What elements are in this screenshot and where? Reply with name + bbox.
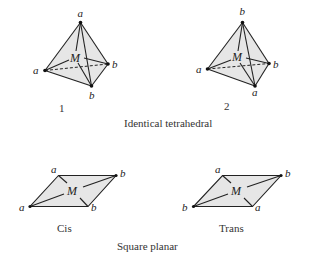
tetrahedron-2: b a b a M 2 — [196, 5, 279, 112]
metal-center-label: M — [230, 184, 242, 198]
isomer-diagram: a a b b M 1 b a b a M 2 Identical tetrah… — [0, 0, 309, 260]
vertex-label-bottom-right: b — [91, 201, 97, 213]
section-title-tetrahedral: Identical tetrahedral — [124, 117, 212, 129]
metal-center-label: M — [66, 184, 78, 198]
metal-center-label: M — [231, 50, 243, 64]
vertex-label-top-right: b — [120, 167, 126, 179]
vertex-label-bottom-right: a — [255, 201, 261, 213]
caption-cis: Cis — [57, 222, 72, 234]
tetrahedron-1: a a b b M 1 — [33, 7, 118, 114]
diagram-number-1: 1 — [59, 102, 65, 114]
vertex-label-left: a — [33, 64, 39, 76]
vertex-label-bottom-left: b — [182, 201, 188, 213]
vertex-label-top-right: b — [285, 167, 291, 179]
vertex-label-bottom-left: a — [19, 201, 25, 213]
metal-center-label: M — [69, 51, 81, 65]
vertex-label-bottom: b — [89, 89, 95, 101]
vertex-label-top-left: a — [215, 163, 221, 175]
vertex-label-right: b — [112, 58, 118, 70]
vertex-label-top: b — [240, 5, 246, 17]
vertex-label-right: b — [273, 58, 279, 70]
square-planar-cis: a b a b M Cis — [19, 163, 126, 234]
section-title-square-planar: Square planar — [117, 240, 178, 252]
square-planar-trans: a b b a M Trans — [182, 163, 291, 234]
vertex-label-bottom: a — [252, 86, 258, 98]
vertex-label-top: a — [78, 7, 84, 19]
caption-trans: Trans — [219, 222, 244, 234]
diagram-number-2: 2 — [224, 100, 230, 112]
vertex-label-top-left: a — [51, 163, 57, 175]
vertex-label-left: a — [196, 63, 202, 75]
